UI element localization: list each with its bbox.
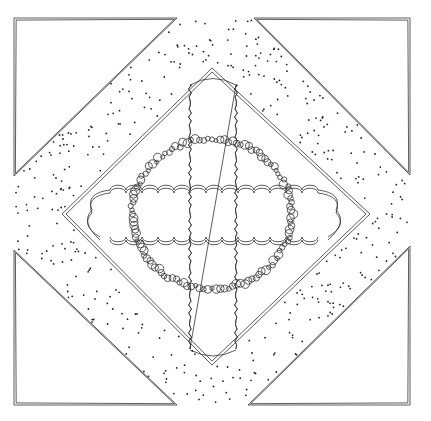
wreath-bead — [262, 266, 271, 275]
inner-diamond — [62, 68, 370, 365]
corner-triangle-bottom-left — [14, 250, 177, 405]
wreath-bead — [128, 203, 133, 208]
wreath-bead — [279, 180, 287, 188]
corner-triangle-top-left — [14, 18, 177, 176]
wreath-bead — [143, 171, 148, 176]
corner-triangle-top-right — [254, 18, 410, 175]
stipple-dots — [15, 20, 408, 404]
center-motif — [88, 79, 341, 357]
wreath-bead — [191, 135, 200, 144]
wreath-bead — [155, 264, 163, 272]
wreath-bead — [241, 140, 250, 149]
wreath-bead — [257, 153, 265, 161]
corner-triangle-bottom-right — [248, 246, 410, 405]
wreath-bead — [134, 184, 140, 190]
vertical-strip — [189, 85, 238, 349]
wreath-bead — [221, 285, 228, 292]
block-structure — [14, 18, 410, 405]
wreath-bead — [196, 285, 203, 292]
wreath-bead — [275, 250, 283, 258]
quilt-block-drawing — [0, 0, 431, 421]
